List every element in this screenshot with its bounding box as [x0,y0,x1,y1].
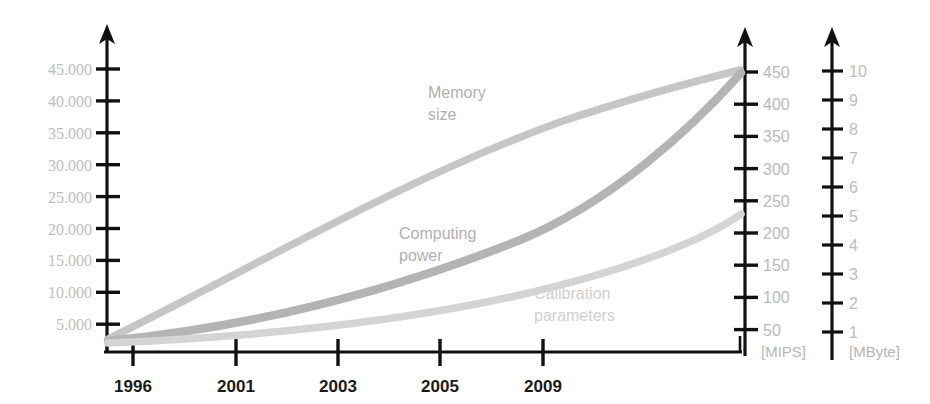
left-axis-tick-label: 35.000 [48,125,92,142]
left-axis-tick-label: 20.000 [48,221,92,238]
mips-axis-tick-label: 300 [763,161,790,178]
x-axis-tick-label: 2001 [217,377,255,396]
mbyte-axis-tick-label: 3 [849,266,858,283]
curve-computing-power [108,73,741,341]
left-axis-tick-label: 10.000 [48,284,92,301]
memory-size-label-line2: size [428,106,457,123]
mbyte-axis-tick-labels: 12345678910 [849,63,867,341]
series-annotation-memory-size: Memory size [428,84,486,123]
mbyte-axis-tick-label: 6 [849,179,858,196]
mbyte-axis-tick-label: 9 [849,92,858,109]
x-axis-tick-label: 1996 [114,377,152,396]
left-axis-tick-label: 30.000 [48,157,92,174]
left-axis [99,24,115,352]
x-axis-tick-label: 2009 [524,377,562,396]
mbyte-axis-tick-label: 5 [849,208,858,225]
mbyte-axis-tick-label: 8 [849,121,858,138]
mips-axis-tick-label: 50 [763,322,781,339]
growth-trend-chart: 5.00010.00015.00020.00025.00030.00035.00… [0,0,930,404]
left-axis-tick-label: 25.000 [48,189,92,206]
calibration-parameters-label-line1: Calibration [534,285,610,302]
mips-axis-tick-label: 100 [763,289,790,306]
computing-power-label-line2: power [399,247,443,264]
x-axis-tick-labels: 19962001200320052009 [114,377,562,396]
left-axis-tick-label: 45.000 [48,61,92,78]
mbyte-axis [824,27,840,360]
mips-axis-unit-label: [MIPS] [761,343,806,360]
left-axis-tick-labels: 5.00010.00015.00020.00025.00030.00035.00… [48,61,92,333]
mbyte-axis-tick-label: 2 [849,295,858,312]
left-axis-tick-label: 15.000 [48,252,92,269]
mips-axis-tick-label: 150 [763,257,790,274]
chart-container: 5.00010.00015.00020.00025.00030.00035.00… [0,0,930,404]
mbyte-axis-tick-label: 10 [849,63,867,80]
mips-axis-tick-labels: 50100150200250300350400450 [763,64,790,339]
mips-axis-tick-label: 250 [763,193,790,210]
left-axis-tick-label: 40.000 [48,93,92,110]
mbyte-axis-tick-label: 1 [849,324,858,341]
memory-size-label-line1: Memory [428,84,486,101]
x-axis-tick-label: 2003 [319,377,357,396]
mbyte-axis-tick-label: 7 [849,150,858,167]
series-annotation-calibration-parameters: Calibration parameters [534,285,615,324]
mbyte-axis-unit-label: [MByte] [849,343,900,360]
mips-axis-tick-label: 450 [763,64,790,81]
curve-memory-size [108,70,740,339]
x-axis-tick-label: 2005 [421,377,459,396]
mbyte-axis-tick-label: 4 [849,237,858,254]
calibration-parameters-label-line2: parameters [534,307,615,324]
mips-axis-tick-label: 350 [763,128,790,145]
mips-axis-tick-label: 400 [763,96,790,113]
mips-axis-tick-label: 200 [763,225,790,242]
series-curves [108,70,741,343]
left-axis-tick-label: 5.000 [56,316,92,333]
computing-power-label-line1: Computing [399,225,476,242]
